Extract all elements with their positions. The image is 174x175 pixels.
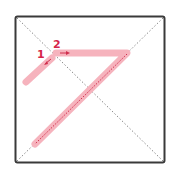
stroke-1-label: 1 [37,48,45,61]
stroke-order-diagram: 1 2 [0,0,174,175]
stroke-2-label: 2 [53,38,61,51]
